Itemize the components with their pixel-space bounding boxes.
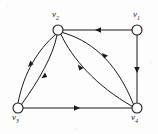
arrowhead-icon (95, 27, 101, 33)
vertex-v1-node[interactable] (132, 25, 142, 35)
edge-v2-to-v3-inner (22, 35, 58, 105)
edge-v2-to-v4-lower (61, 35, 133, 107)
vertex-label-v4-sub: 4 (135, 118, 138, 124)
arrowhead-icon (74, 105, 80, 111)
edge-v3-to-v4 (23, 105, 132, 111)
vertex-v2-node[interactable] (53, 25, 63, 35)
vertex-label-v1: v1 (133, 10, 140, 21)
arrowhead-icon (78, 65, 84, 71)
vertex-label-v2-sub: 2 (56, 15, 59, 21)
edge-v1-to-v2 (63, 27, 132, 33)
vertex-label-v3: v3 (12, 113, 19, 124)
vertex-label-v4: v4 (131, 113, 138, 124)
arrowhead-icon (41, 73, 47, 79)
vertex-label-v2: v2 (52, 10, 59, 21)
edge-v2-to-v3-outer (18, 35, 56, 104)
edge-v1-to-v4 (134, 35, 140, 103)
edge-v2-to-v4-upper (63, 33, 134, 105)
arrowhead-icon (134, 67, 140, 73)
vertex-label-v3-sub: 3 (16, 118, 19, 124)
vertex-label-v1-sub: 1 (137, 15, 140, 21)
graph-figure: v2 v1 v3 v4 (0, 0, 158, 134)
